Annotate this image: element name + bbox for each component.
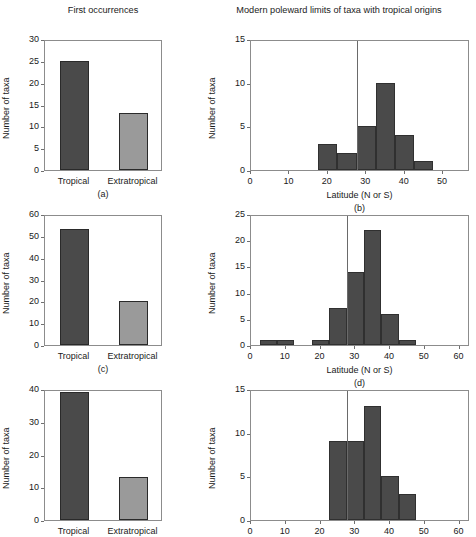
hist-bar-f-1 — [347, 441, 364, 520]
xtick-mark-f-20 — [320, 521, 321, 524]
ytick-label-f-5: 5 — [220, 471, 245, 481]
xtick-label-f-20: 20 — [305, 526, 335, 536]
ytick-label-f-15: 15 — [220, 384, 245, 394]
xtick-label-f-50: 50 — [409, 526, 439, 536]
xtick-mark-f-40 — [389, 521, 390, 524]
xtick-label-f-40: 40 — [374, 526, 404, 536]
tropics-divider-f — [347, 391, 348, 521]
ytick-label-f-10: 10 — [220, 428, 245, 438]
hist-bar-f-3 — [381, 476, 398, 520]
xtick-mark-f-30 — [354, 521, 355, 524]
hist-bar-f-0 — [329, 441, 346, 520]
xtick-mark-f-60 — [459, 521, 460, 524]
xtick-label-f-10: 10 — [270, 526, 300, 536]
xtick-label-f-0: 0 — [235, 526, 265, 536]
hist-bar-f-2 — [364, 406, 381, 520]
ytick-label-f-0: 0 — [220, 515, 245, 525]
plot-area-f — [250, 390, 469, 521]
xtick-label-f-60: 60 — [444, 526, 474, 536]
xtick-label-f-30: 30 — [339, 526, 369, 536]
panel-f: 051015Number of taxaTropicsExtratropics0… — [0, 0, 476, 537]
hist-bar-f-4 — [399, 494, 416, 520]
figure-panel-grid: First occurrences Modern poleward limits… — [0, 0, 476, 537]
y-axis-label-f: Number of taxa — [207, 427, 217, 489]
xtick-mark-f-10 — [285, 521, 286, 524]
xtick-mark-f-0 — [250, 521, 251, 524]
xtick-mark-f-50 — [424, 521, 425, 524]
